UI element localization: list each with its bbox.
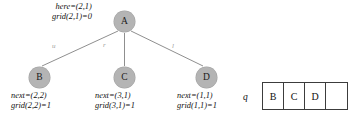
- tree-node-c[interactable]: C: [114, 67, 135, 88]
- annotation-node-d-line2: grid(1,1)=1: [177, 101, 217, 111]
- tree-node-d[interactable]: D: [196, 67, 217, 88]
- queue-label: q: [243, 93, 248, 103]
- edge-label-a-d: l: [172, 43, 174, 50]
- annotation-node-c-line1: next=(3,1): [95, 91, 135, 101]
- annotation-node-c: next=(3,1) grid(3,1)=1: [95, 91, 135, 112]
- tree-node-c-label: C: [121, 73, 127, 83]
- queue-cell[interactable]: C: [284, 83, 305, 109]
- annotation-node-a: here=(2,1) grid(2,1)=0: [52, 2, 92, 23]
- tree-node-a[interactable]: A: [114, 11, 135, 32]
- tree-node-d-label: D: [203, 73, 210, 83]
- annotation-node-b: next=(2,2) grid(2,2)=1: [11, 91, 51, 112]
- diagram-canvas: u r l A B C D here=(2,1) grid(2,1)=0 nex…: [0, 0, 352, 119]
- queue-cell[interactable]: B: [263, 83, 284, 109]
- annotation-node-c-line2: grid(3,1)=1: [95, 101, 135, 111]
- queue-cell[interactable]: D: [305, 83, 326, 109]
- queue-array: B C D: [262, 82, 348, 110]
- annotation-node-b-line2: grid(2,2)=1: [11, 101, 51, 111]
- tree-node-b-label: B: [36, 73, 42, 83]
- queue-cell[interactable]: [326, 83, 347, 109]
- annotation-node-b-line1: next=(2,2): [11, 91, 51, 101]
- annotation-node-a-line1: here=(2,1): [52, 2, 92, 12]
- edge-label-a-c: r: [103, 42, 106, 49]
- annotation-node-d-line1: next=(1,1): [177, 91, 217, 101]
- annotation-node-d: next=(1,1) grid(1,1)=1: [177, 91, 217, 112]
- tree-node-b[interactable]: B: [29, 67, 50, 88]
- tree-node-a-label: A: [121, 17, 128, 27]
- annotation-node-a-line2: grid(2,1)=0: [52, 12, 92, 22]
- edge-a-to-d: [131, 31, 203, 66]
- edge-label-a-b: u: [52, 43, 56, 50]
